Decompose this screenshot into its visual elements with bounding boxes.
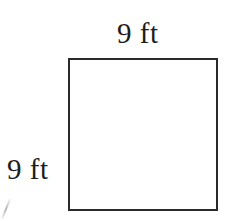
square-outline bbox=[68, 58, 218, 211]
top-dimension-label: 9 ft bbox=[117, 19, 158, 48]
figure-canvas: 9 ft 9 ft bbox=[0, 0, 232, 221]
left-dimension-label: 9 ft bbox=[7, 155, 48, 184]
scan-artifact-mark bbox=[1, 198, 11, 219]
